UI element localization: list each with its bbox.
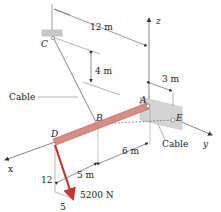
cable-left-label: Cable [9, 92, 35, 102]
cable-right-label: Cable [162, 139, 188, 149]
point-d-label: D [50, 129, 58, 139]
point-b-label: B [95, 113, 103, 123]
joint-a [146, 104, 150, 108]
joint-c [51, 36, 54, 39]
point-c-label: C [41, 39, 48, 49]
y-axis-label: y [202, 139, 209, 149]
point-e-label: E [175, 113, 183, 123]
dim-5m-label: 5 m [77, 170, 95, 180]
dim-12m-label: 12 m [90, 22, 113, 32]
z-axis-label: z [155, 16, 161, 26]
statics-diagram: z x y 12 m 4 m 3 m Cable [0, 0, 221, 212]
ceiling-support-c [42, 4, 62, 36]
slope-vertical-label: 12 [41, 175, 52, 185]
joint-e [171, 118, 175, 122]
force-arrow [55, 145, 73, 199]
point-a-label: A [139, 95, 147, 105]
cable-cb [53, 37, 97, 124]
slope-horizontal-label: 5 [60, 202, 66, 212]
x-axis-label: x [8, 164, 13, 174]
dim-3m-label: 3 m [162, 74, 180, 84]
cable-right-leader [158, 124, 165, 140]
boom-ad [53, 103, 149, 145]
dim-6m-label: 6 m [122, 146, 140, 156]
dim-4m-label: 4 m [95, 66, 113, 76]
force-magnitude-label: 5200 N [80, 190, 114, 200]
